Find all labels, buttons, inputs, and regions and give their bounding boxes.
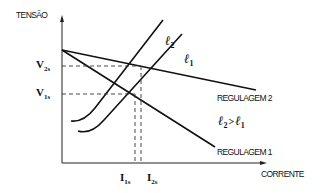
curve-l2-label: ℓ2 — [165, 33, 175, 50]
y-axis-arrow-icon — [60, 15, 64, 22]
regulation-2-line — [62, 50, 256, 90]
relation-label: ℓ2>ℓ1 — [218, 113, 245, 130]
i2s-label: I2s — [147, 171, 158, 186]
x-axis-label: CORRENTE — [261, 169, 304, 179]
x-axis-arrow-icon — [260, 161, 267, 165]
v1s-label: V1s — [36, 86, 50, 101]
curve-l1-label: ℓ1 — [184, 51, 194, 68]
v2s-label: V2s — [36, 58, 50, 73]
i1s-label: I1s — [120, 171, 131, 186]
regulation-2-label: REGULAGEM 2 — [217, 93, 272, 103]
regulation-1-label: REGULAGEM 1 — [217, 147, 272, 157]
y-axis-label: TENSÃO — [16, 10, 47, 20]
